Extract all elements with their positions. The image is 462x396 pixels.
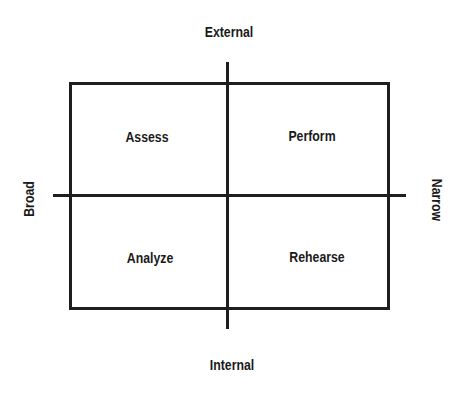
axis-label-bottom: Internal xyxy=(210,356,254,373)
horizontal-axis-line xyxy=(53,194,406,197)
quadrant-label-bottom-right: Rehearse xyxy=(289,248,344,265)
axis-label-left: Broad xyxy=(20,181,37,217)
axis-label-right: Narrow xyxy=(429,179,446,221)
quadrant-label-top-left: Assess xyxy=(125,128,168,145)
quadrant-label-bottom-left: Analyze xyxy=(127,249,173,266)
axis-label-top: External xyxy=(205,23,254,40)
quadrant-label-top-right: Perform xyxy=(288,127,335,144)
